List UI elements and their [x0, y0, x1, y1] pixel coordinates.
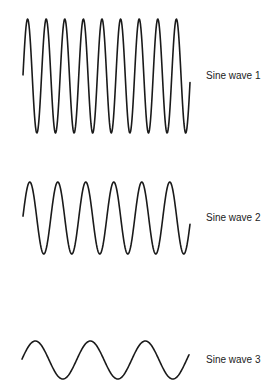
sine-wave-3-curve: [22, 341, 189, 379]
sine-wave-1-curve: [23, 19, 190, 133]
sine-wave-1-label: Sine wave 1: [206, 70, 260, 82]
sine-wave-diagram: [0, 0, 276, 386]
sine-wave-2-label: Sine wave 2: [206, 212, 260, 224]
sine-wave-2-curve: [23, 182, 190, 254]
sine-wave-3-label: Sine wave 3: [206, 354, 260, 366]
